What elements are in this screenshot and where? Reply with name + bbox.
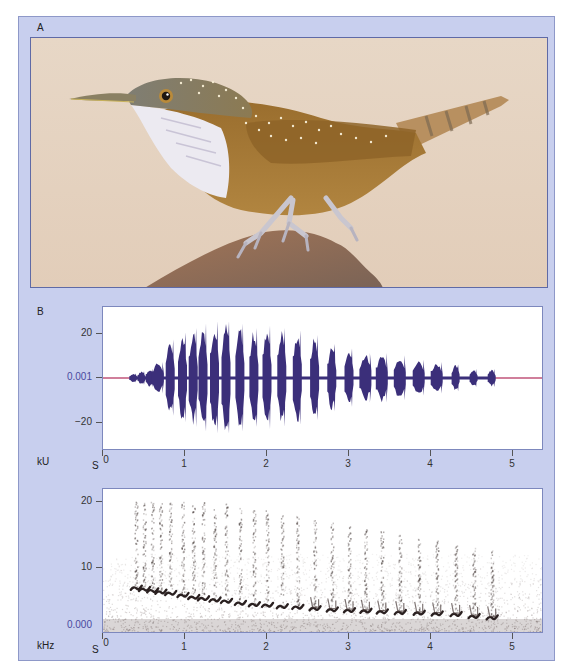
- waveform-ytick-mark: [96, 333, 102, 334]
- waveform-xtick-mark: [430, 450, 431, 456]
- spectrogram-xtick-mark: [266, 633, 267, 639]
- waveform-xtick-mark: [266, 450, 267, 456]
- spectrogram-ytick-mark: [96, 501, 102, 502]
- spectrogram-xtick-4: 4: [420, 641, 440, 652]
- spectrogram-xtick-mark: [184, 633, 185, 639]
- spectrogram-xtick-2: 2: [256, 641, 276, 652]
- waveform-xtick-0: 0: [96, 454, 116, 465]
- waveform-xtick-4: 4: [420, 458, 440, 469]
- spectrogram-xtick-mark: [430, 633, 431, 639]
- waveform-xtick-2: 2: [256, 458, 276, 469]
- spectrogram-ytick-mark: [96, 567, 102, 568]
- bird-illustration: [30, 37, 548, 288]
- waveform-graphic: [103, 307, 543, 450]
- waveform-ytick-mark: [96, 377, 102, 378]
- spectrogram-xtick-0: 0: [96, 637, 116, 648]
- spectrogram-xtick-mark: [348, 633, 349, 639]
- waveform-xtick-mark: [512, 450, 513, 456]
- bird-icon: [31, 38, 548, 288]
- spectrogram-y-unit: kHz: [37, 640, 54, 651]
- waveform-ytick-mark: [96, 422, 102, 423]
- panel-a-label: A: [37, 22, 44, 33]
- spectrogram-ytick-20: 20: [52, 495, 92, 506]
- spectrogram-ytick-10: 10: [52, 561, 92, 572]
- spectrogram-xtick-5: 5: [502, 641, 522, 652]
- panel-b-label: B: [37, 306, 44, 317]
- waveform-ytick-20: 20: [52, 327, 92, 338]
- waveform-xtick-1: 1: [174, 458, 194, 469]
- spectrogram-xtick-mark: [512, 633, 513, 639]
- spectrogram-graphic: [103, 489, 543, 633]
- waveform-xtick-mark: [348, 450, 349, 456]
- spectrogram-ytick-zero: 0.000: [52, 619, 92, 630]
- waveform-xtick-5: 5: [502, 458, 522, 469]
- waveform-ytick-neg20: −20: [52, 416, 92, 427]
- waveform-ytick-zero: 0.001: [52, 371, 92, 382]
- waveform-xtick-3: 3: [338, 458, 358, 469]
- spectrogram-xtick-3: 3: [338, 641, 358, 652]
- waveform-y-unit: kU: [37, 456, 49, 467]
- spectrogram-xtick-1: 1: [174, 641, 194, 652]
- waveform-plot: [102, 306, 543, 450]
- waveform-xtick-mark: [184, 450, 185, 456]
- spectrogram-plot: [102, 488, 543, 633]
